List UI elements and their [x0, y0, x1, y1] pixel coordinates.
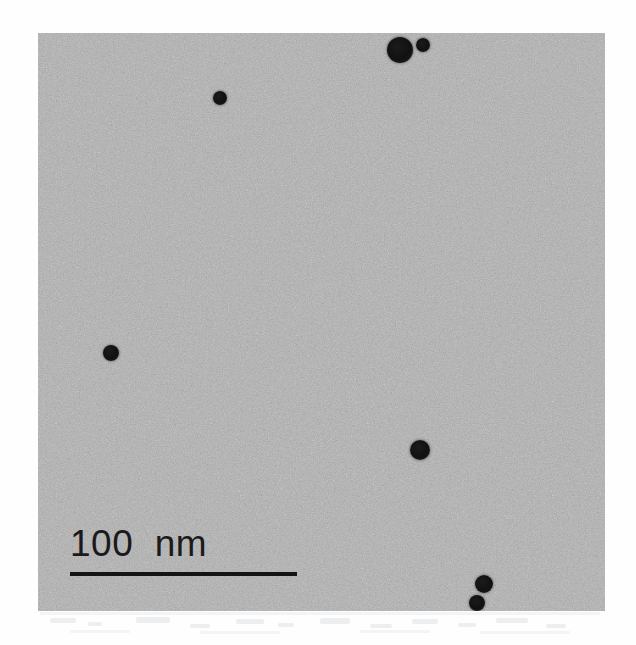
particle-center-right [410, 440, 430, 460]
scale-bar-line [70, 572, 297, 576]
particle-bottom-upper [475, 575, 493, 593]
scan-artifact-ghost [40, 612, 600, 640]
particle-top-small [416, 38, 430, 52]
scale-bar: 100 nm [70, 524, 300, 576]
particle-upper-left [213, 91, 227, 105]
tem-figure: 100 nm [0, 0, 636, 645]
particle-bottom-lower [469, 595, 485, 611]
particle-mid-left [103, 345, 119, 361]
micrograph-plate: 100 nm [38, 33, 605, 611]
particle-top-large [387, 37, 413, 63]
scale-bar-label: 100 nm [70, 524, 207, 564]
